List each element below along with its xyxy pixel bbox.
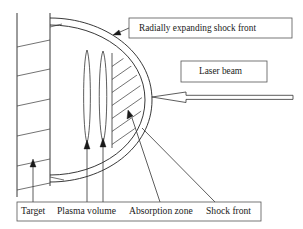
laser-target-schematic: Radially expanding shock front Laser bea…: [0, 0, 303, 229]
callout-shock-front[interactable]: Radially expanding shock front: [129, 18, 292, 38]
plasma-volume: [84, 50, 107, 143]
plasma-left-arrowhead: [84, 140, 90, 149]
caption-box[interactable]: Target Plasma volume Absorption zone Sho…: [17, 202, 261, 221]
caption-label-absorption-zone: Absorption zone: [129, 205, 193, 216]
shock-front-arrowhead: [113, 30, 121, 35]
plasma-right-arrowhead: [100, 138, 106, 147]
diagram-canvas: Radially expanding shock front Laser bea…: [0, 0, 303, 229]
laser-beam-box-label: Laser beam: [199, 66, 243, 76]
target-slab: [17, 13, 64, 197]
absorption-zone-hatched: [104, 40, 150, 176]
caption-label-plasma-volume: Plasma volume: [57, 205, 116, 216]
laser-beam-arrow: [152, 92, 293, 103]
shock-front-box-label: Radially expanding shock front: [139, 23, 256, 33]
callout-laser-beam[interactable]: Laser beam: [181, 61, 267, 82]
caption-label-target: Target: [21, 205, 46, 216]
caption-label-shock-front: Shock front: [206, 205, 251, 216]
